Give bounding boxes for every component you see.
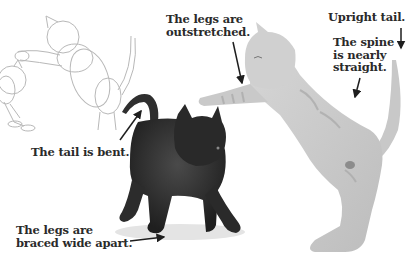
annotation-upright-tail: Upright tail. xyxy=(328,11,405,24)
annotation-spine-straight: The spine is nearly straight. xyxy=(333,36,394,74)
annotation-line: The legs are xyxy=(16,224,132,237)
black-kitten xyxy=(115,94,245,240)
arrow-legs-outstretched xyxy=(233,42,242,83)
arrow-spine-straight xyxy=(355,78,360,97)
annotation-line: braced wide apart. xyxy=(16,237,132,250)
annotation-line: The legs are xyxy=(166,13,250,26)
annotation-line: outstretched. xyxy=(166,26,250,39)
annotation-legs-outstretched: The legs are outstretched. xyxy=(166,13,250,38)
annotation-tail-bent: The tail is bent. xyxy=(31,146,129,159)
construction-sketch xyxy=(0,16,135,131)
annotation-line: The tail is bent. xyxy=(31,146,129,159)
annotation-line: The spine xyxy=(333,36,394,49)
annotation-line: straight. xyxy=(333,61,394,74)
annotation-legs-braced: The legs are braced wide apart. xyxy=(16,224,132,249)
annotation-line: Upright tail. xyxy=(328,11,405,24)
